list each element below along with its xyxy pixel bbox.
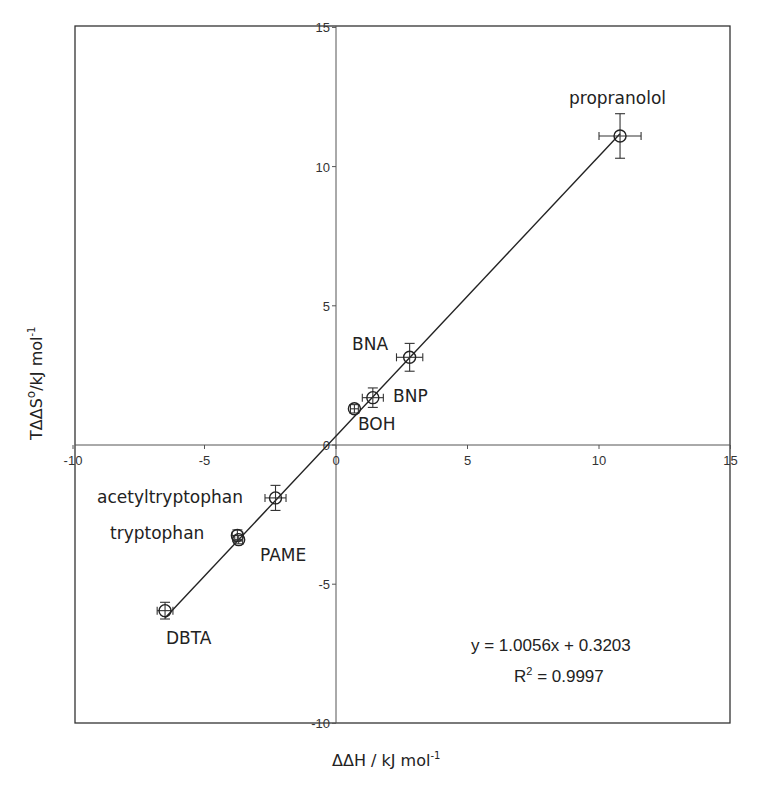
data-point	[265, 485, 286, 510]
x-tick-label: 10	[592, 453, 606, 468]
point-label-tryptophan: tryptophan	[110, 523, 204, 543]
r-squared-text: R2 = 0.9997	[514, 665, 604, 686]
x-tick-label: 0	[332, 453, 339, 468]
x-tick-label: 5	[464, 453, 471, 468]
x-tick-label: -5	[199, 453, 211, 468]
data-point	[599, 114, 641, 159]
data-point	[157, 602, 173, 619]
y-tick-label: 10	[316, 160, 330, 175]
point-label-pame: PAME	[260, 545, 306, 565]
equation-text: y = 1.0056x + 0.3203	[471, 636, 631, 655]
x-axis-title: ΔΔH / kJ mol-1	[332, 750, 440, 770]
plot-frame	[75, 26, 730, 723]
point-label-boh: BOH	[358, 414, 396, 434]
x-tick-label: 15	[723, 453, 737, 468]
axes: -10-5051015-10-5051015	[64, 20, 738, 731]
y-tick-label: 5	[323, 299, 330, 314]
x-tick-label: -10	[64, 453, 83, 468]
data-point	[233, 534, 245, 546]
regression-line	[165, 134, 620, 618]
point-label-dbta: DBTA	[166, 628, 212, 648]
point-label-bnp: BNP	[393, 386, 428, 406]
point-label-acetyltryptophan: acetyltryptophan	[97, 487, 243, 507]
y-tick-label: 15	[316, 20, 330, 35]
y-tick-label: -5	[318, 577, 330, 592]
data-point	[348, 403, 360, 415]
y-axis-title: TΔΔSo/kJ mol-1	[24, 327, 46, 441]
point-label-bna: BNA	[352, 334, 388, 354]
point-labels: propranololBNABNPBOHacetyltryptophantryp…	[97, 88, 666, 648]
y-tick-label: -10	[311, 716, 330, 731]
point-label-propranolol: propranolol	[569, 88, 666, 108]
scatter-chart: -10-5051015-10-5051015 propranololBNABNP…	[0, 0, 757, 792]
